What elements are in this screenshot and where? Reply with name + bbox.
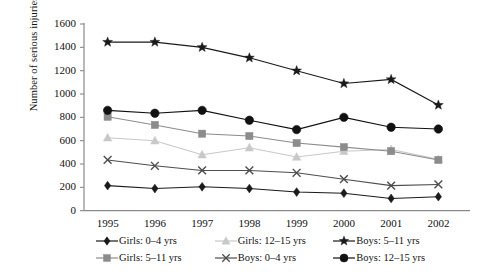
data-point-diamond [104,181,110,190]
data-point-star [433,100,443,109]
data-point-square [104,254,111,261]
star-marker-icon [386,74,396,83]
data-point-square [435,156,442,163]
data-point-square [151,121,158,128]
data-point-circle [151,109,159,117]
diamond-marker-icon [388,194,394,203]
circle-marker-icon [103,106,111,114]
legend-marker [96,252,118,264]
chart-legend: Girls: 0–4 yrsGirls: 12–15 yrsBoys: 5–11… [96,232,452,266]
data-point-star [340,236,349,245]
data-point-circle [103,106,111,114]
data-point-star [103,37,113,46]
series-0 [104,181,441,203]
square-marker-icon [151,121,158,128]
circle-marker-icon [151,109,159,117]
square-marker-icon [104,254,111,261]
diamond-marker-icon [246,184,252,193]
legend-item[interactable]: Girls: 0–4 yrs [96,232,215,249]
data-point-diamond [435,192,441,201]
data-point-circle [340,113,348,121]
data-point-diamond [293,188,299,197]
diamond-marker-icon [152,184,158,193]
legend-marker [215,235,237,247]
star-marker-icon [150,37,160,46]
legend-marker [215,252,237,264]
data-point-circle [292,125,300,133]
data-point-circle [434,125,442,133]
star-marker-icon [103,37,113,46]
data-point-triangle [245,143,253,151]
circle-marker-icon [340,113,348,121]
square-marker-icon [340,144,347,151]
legend-item[interactable]: Boys: 5–11 yrs [333,232,452,249]
data-point-circle [387,123,395,131]
legend-label: Girls: 0–4 yrs [119,235,177,247]
diamond-marker-icon [199,182,205,191]
square-marker-icon [293,139,300,146]
legend-marker-icon [215,252,237,264]
legend-label: Boys: 12–15 yrs [356,252,425,264]
data-point-diamond [199,182,205,191]
triangle-marker-icon [245,143,253,151]
star-marker-icon [433,100,443,109]
circle-marker-icon [340,254,348,262]
square-marker-icon [388,148,395,155]
legend-item[interactable]: Girls: 12–15 yrs [215,232,334,249]
square-marker-icon [199,130,206,137]
star-marker-icon [292,65,302,74]
data-point-square [388,148,395,155]
data-point-star [292,65,302,74]
diamond-marker-icon [341,189,347,198]
legend-marker-icon [96,235,118,247]
data-point-diamond [341,189,347,198]
data-point-square [199,130,206,137]
diamond-marker-icon [435,192,441,201]
legend-label: Girls: 5–11 yrs [119,252,182,264]
data-point-star [386,74,396,83]
data-point-circle [198,106,206,114]
series-5 [103,106,442,134]
legend-item[interactable]: Boys: 0–4 yrs [215,249,334,266]
legend-marker [333,235,355,247]
legend-label: Boys: 0–4 yrs [238,252,296,264]
legend-marker-icon [333,235,355,247]
diamond-marker-icon [104,181,110,190]
legend-marker [96,235,118,247]
data-point-star [244,53,254,62]
square-marker-icon [246,132,253,139]
triangle-marker-icon [103,133,111,141]
data-point-star [150,37,160,46]
legend-label: Boys: 5–11 yrs [356,235,419,247]
series-line [108,42,439,105]
legend-marker-icon [333,252,355,264]
legend-item[interactable]: Boys: 12–15 yrs [333,249,452,266]
circle-marker-icon [198,106,206,114]
square-marker-icon [435,156,442,163]
star-marker-icon [340,236,349,245]
data-point-square [293,139,300,146]
data-point-circle [340,254,348,262]
data-point-diamond [104,236,110,244]
diamond-marker-icon [293,188,299,197]
legend-item[interactable]: Girls: 5–11 yrs [96,249,215,266]
star-marker-icon [339,78,349,87]
star-marker-icon [244,53,254,62]
data-point-square [246,132,253,139]
data-point-diamond [388,194,394,203]
legend-marker-icon [215,235,237,247]
data-point-diamond [152,184,158,193]
data-point-star [339,78,349,87]
circle-marker-icon [387,123,395,131]
star-marker-icon [197,42,207,51]
data-point-circle [245,116,253,124]
chart-container: Number of serious injuries or deaths 020… [0,0,477,272]
series-4 [103,37,444,109]
data-point-star [197,42,207,51]
legend-marker [333,252,355,264]
circle-marker-icon [292,125,300,133]
diamond-marker-icon [104,236,110,244]
data-point-triangle [103,133,111,141]
legend-label: Girls: 12–15 yrs [238,235,306,247]
legend-marker-icon [96,252,118,264]
